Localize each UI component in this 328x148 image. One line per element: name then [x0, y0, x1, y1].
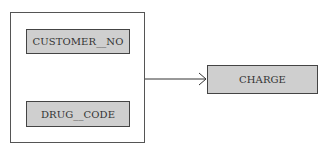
attribute-charge: CHARGE	[207, 65, 318, 94]
attribute-label: CHARGE	[239, 74, 286, 85]
